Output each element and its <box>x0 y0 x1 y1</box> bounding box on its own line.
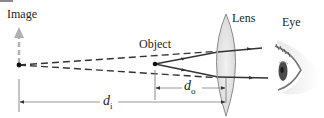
image-arrow <box>14 27 24 63</box>
magnifier-diagram: Image Object Lens Eye do di <box>0 0 324 118</box>
do-subscript: o <box>191 86 196 96</box>
real-rays <box>155 52 218 77</box>
eye-label: Eye <box>282 15 301 30</box>
eye-icon <box>275 40 320 94</box>
object-distance-label: do <box>184 78 196 96</box>
virtual-rays <box>19 51 222 78</box>
lens-label: Lens <box>232 11 255 26</box>
image-point <box>17 63 22 68</box>
image-label: Image <box>7 7 37 22</box>
di-symbol: d <box>103 93 110 108</box>
diagram-canvas <box>0 0 324 118</box>
object-label: Object <box>139 37 171 52</box>
image-distance-label: di <box>101 93 115 111</box>
do-symbol: d <box>184 78 191 93</box>
di-subscript: i <box>110 101 113 111</box>
object-point <box>153 62 158 67</box>
